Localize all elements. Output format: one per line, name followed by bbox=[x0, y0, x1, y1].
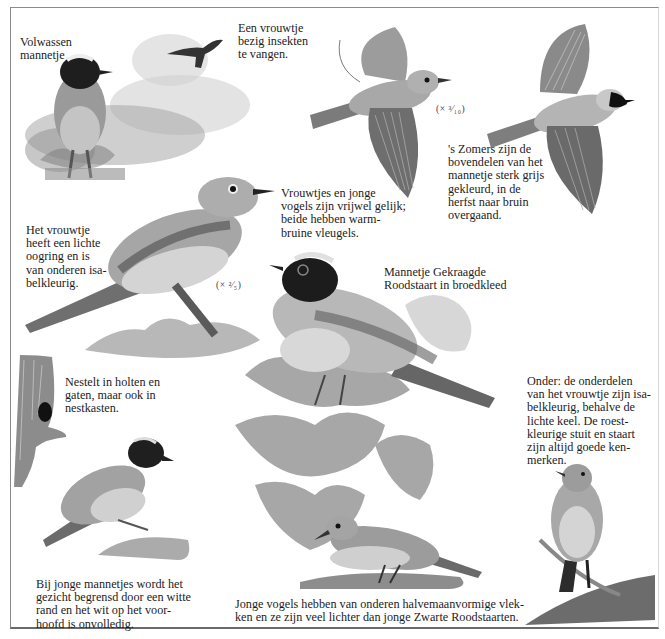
scale-perched: (× ²⁄₅) bbox=[216, 280, 241, 290]
juvenile-illustration bbox=[300, 510, 490, 590]
caption-female-eyering: Het vrouwtje heeft een lichte oogring en… bbox=[26, 224, 107, 290]
caption-young-males: Bij jonge mannetjes wordt het gezicht be… bbox=[36, 578, 191, 631]
caption-females-juveniles: Vrouwtjes en jonge vogels zijn vrijwel g… bbox=[281, 187, 406, 240]
caption-adult-male: Volwassen mannetje bbox=[20, 36, 72, 62]
caption-nesting: Nestelt in holten en gaten, maar ook in … bbox=[65, 376, 160, 416]
adult-male-redstart-illustration bbox=[45, 50, 125, 180]
young-male-illustration bbox=[38, 435, 193, 565]
female-flycatching-illustration bbox=[165, 36, 225, 70]
female-front-illustration bbox=[515, 460, 660, 630]
caption-female-catching: Een vrouwtje bezig insekten te vangen. bbox=[238, 22, 308, 62]
caption-juveniles: Jonge vogels hebben van onderen halvemaa… bbox=[235, 598, 524, 624]
caption-collared-male: Mannetje Gekraagde Roodstaart in broedkl… bbox=[384, 266, 507, 292]
caption-female-underparts: Onder: de onderdelen van het vrouwtje zi… bbox=[527, 375, 651, 467]
scale-flight: (× ³⁄₁₀) bbox=[436, 104, 465, 114]
caption-summer-upperparts: 's Zomers zijn de bovendelen van het man… bbox=[448, 143, 544, 222]
